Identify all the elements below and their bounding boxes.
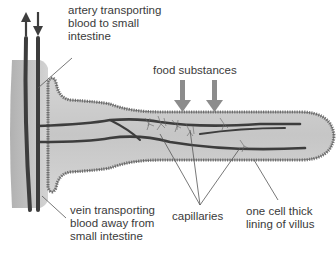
- villus-diagram: artery transporting blood to small intes…: [0, 0, 336, 257]
- artery-label: artery transporting blood to small intes…: [68, 4, 161, 43]
- vein-label: vein transporting blood away from small …: [70, 204, 155, 243]
- food-arrows: [174, 80, 223, 112]
- blood-flow-arrows: [21, 12, 43, 36]
- lining-leader: [254, 160, 278, 200]
- arrow-up-icon: [21, 12, 31, 36]
- capillaries-label: capillaries: [172, 210, 223, 223]
- food-substances-label: food substances: [153, 64, 237, 77]
- arrow-down-icon: [33, 12, 43, 36]
- lining-label: one cell thick lining of villus: [246, 205, 314, 231]
- food-arrow-2-icon: [206, 80, 223, 112]
- vein-leader: [42, 196, 66, 218]
- food-arrow-1-icon: [174, 80, 191, 112]
